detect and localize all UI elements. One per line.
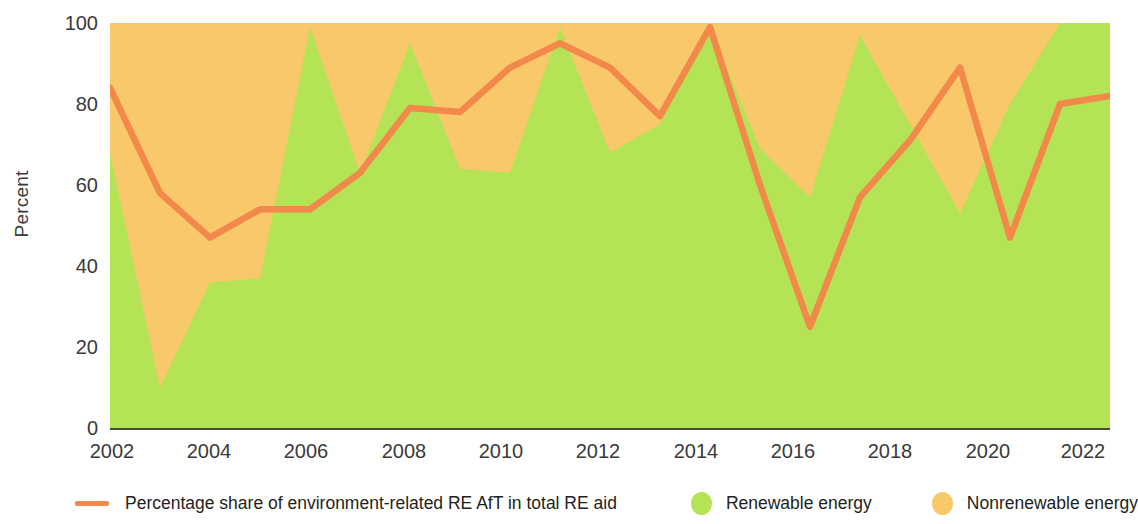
y-tick-label: 40 [20,255,98,278]
nonrenewable-swatch-icon [932,492,953,515]
x-tick-label: 2012 [553,440,643,463]
legend-item-percentage-share[interactable]: Percentage share of environment-related … [0,493,617,514]
y-tick-label: 80 [20,93,98,116]
y-tick-label: 0 [20,417,98,440]
x-axis-tick-labels: 2002 2004 2006 2008 2010 2012 2014 2016 … [0,440,1121,468]
x-tick-label: 2020 [943,440,1033,463]
y-tick-label: 100 [20,12,98,35]
x-tick-label: 2004 [164,440,254,463]
legend-item-nonrenewable-energy[interactable]: Nonrenewable energy [932,492,1138,515]
x-axis-baseline [110,428,1110,430]
y-tick-label: 20 [20,336,98,359]
x-tick-label: 2008 [359,440,449,463]
legend-label: Renewable energy [726,493,872,514]
x-tick-label: 2016 [748,440,838,463]
chart-legend: Percentage share of environment-related … [0,486,1121,520]
legend-label: Nonrenewable energy [967,493,1138,514]
y-tick-label: 60 [20,174,98,197]
legend-item-renewable-energy[interactable]: Renewable energy [691,492,872,515]
y-axis-tick-labels: 100 80 60 40 20 0 [20,0,98,440]
x-tick-label: 2006 [261,440,351,463]
x-tick-label: 2014 [651,440,741,463]
x-tick-label: 2018 [845,440,935,463]
legend-label: Percentage share of environment-related … [125,493,617,514]
x-tick-label: 2002 [67,440,157,463]
plot-area [110,23,1110,428]
x-tick-label: 2010 [456,440,546,463]
chart-svg [110,23,1110,428]
renewable-swatch-icon [691,492,712,515]
line-swatch-icon [75,501,109,506]
x-tick-label: 2022 [1038,440,1128,463]
